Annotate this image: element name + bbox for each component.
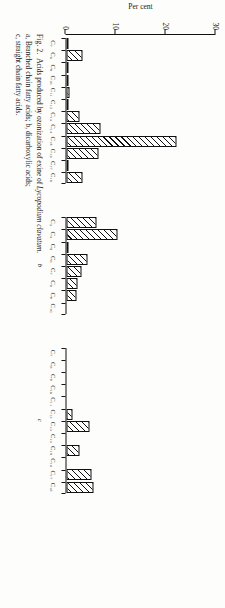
chart-panel-c: C₇C₈C₉C₁₀C₁₁C₁₂C₁₃C₁₄C₁₅C₁₆C₁₇C₁₈c: [65, 348, 215, 493]
bar-c-C8: [66, 360, 67, 371]
caption-text-sep: .: [34, 251, 43, 253]
y-axis-title: Per cent: [128, 2, 152, 11]
x-axis-tick: [61, 217, 65, 218]
x-axis-tick: [61, 99, 65, 100]
x-axis-tick: [61, 290, 65, 291]
figure-caption: Fig. 2. Acids produced by ozonization of…: [11, 34, 43, 574]
x-axis-label-C13: C₁₃: [48, 421, 55, 432]
bar-c-C14: [66, 433, 67, 444]
bar-c-C7: [66, 348, 67, 359]
plot-area: 0102030 Per cent C₇C₈C₉C₁₀C₁₁C₁₂C₁₃C₁₄C₁…: [65, 34, 215, 574]
x-axis-label-C17: C₁₇: [48, 160, 55, 171]
y-axis-tick-label: 0: [61, 26, 69, 30]
x-axis-label-C8: C₈: [48, 50, 55, 61]
x-axis-label-C10: C₁₀: [48, 75, 55, 86]
x-axis-label-C14: C₁₄: [48, 123, 55, 134]
x-axis-tick: [61, 348, 65, 349]
x-axis-label-C8: C₈: [48, 278, 55, 289]
x-axis-labels: C₇C₈C₉C₁₀C₁₁C₁₂C₁₃C₁₄C₁₅C₁₆C₁₇C₁₈: [48, 38, 55, 183]
y-axis-tick-label: 10: [111, 23, 119, 31]
x-axis-tick: [61, 457, 65, 458]
x-axis-tick: [61, 314, 65, 315]
bar-b-C4: [66, 229, 118, 240]
x-axis-label-C18: C₁₈: [48, 172, 55, 183]
x-axis-tick: [61, 372, 65, 373]
bar-c-C15: [66, 445, 79, 456]
y-axis-tick-label: 30: [211, 23, 219, 31]
x-axis-tick: [61, 172, 65, 173]
x-axis-label-C9: C₉: [48, 290, 55, 301]
x-axis-label-C7: C₇: [48, 38, 55, 49]
x-axis-tick: [61, 278, 65, 279]
x-axis-label-C12: C₁₂: [48, 409, 55, 420]
x-axis-tick: [61, 493, 65, 494]
x-axis-tick: [61, 482, 65, 483]
bar-a-C10: [66, 75, 69, 86]
bar-c-C10: [66, 384, 67, 395]
bar-a-C18: [66, 172, 83, 183]
x-axis-label-C4: C₄: [48, 229, 55, 240]
x-axis-label-C5: C₅: [48, 242, 55, 253]
x-axis-tick: [61, 433, 65, 434]
bar-c-C11: [66, 396, 67, 407]
x-axis-label-C15: C₁₅: [48, 445, 55, 456]
x-axis-label-C9: C₉: [48, 372, 55, 383]
figure-number: Fig. 2.: [34, 34, 43, 55]
x-axis-label-C9: C₉: [48, 62, 55, 73]
x-axis-tick: [61, 111, 65, 112]
x-axis-label-C16: C₁₆: [48, 457, 55, 468]
x-axis-tick: [61, 303, 65, 304]
x-axis-label-C11: C₁₁: [48, 87, 55, 98]
bar-group: [66, 348, 215, 493]
x-axis-tick: [61, 421, 65, 422]
x-axis-label-C12: C₁₂: [48, 99, 55, 110]
x-axis-label-C13: C₁₃: [48, 111, 55, 122]
bar-a-C17: [66, 160, 68, 171]
bar-c-C18: [66, 482, 93, 493]
x-axis-tick: [61, 470, 65, 471]
x-axis-label-C10: C₁₀: [48, 303, 55, 314]
caption-species-name: Lycopodium clavatum: [34, 186, 43, 251]
x-axis-tick: [61, 360, 65, 361]
x-axis-label-C7: C₇: [48, 266, 55, 277]
bar-a-C11: [66, 87, 69, 98]
x-axis-label-C18: C₁₈: [48, 482, 55, 493]
bar-b-C8: [66, 278, 77, 289]
x-axis-tick: [61, 384, 65, 385]
bar-b-C3: [66, 217, 96, 228]
rotated-page-wrapper: 0102030 Per cent C₇C₈C₉C₁₀C₁₁C₁₂C₁₃C₁₄C₁…: [0, 0, 225, 608]
bar-a-C7: [66, 38, 68, 49]
x-axis-tick: [61, 123, 65, 124]
x-axis-tick: [61, 160, 65, 161]
bar-b-C10: [66, 303, 67, 314]
caption-legend-c: c, straight chain fatty acids.: [13, 34, 22, 115]
caption-legend-a: a, Branched chain fatty acids;: [23, 34, 32, 123]
bar-group: [66, 38, 215, 183]
bar-a-C9: [66, 62, 68, 73]
bar-b-C7: [66, 266, 81, 277]
x-axis-tick: [61, 445, 65, 446]
x-axis-tick: [61, 242, 65, 243]
chart-panel-b: C₃C₄C₅C₆C₇C₈C₉C₁₀b: [65, 217, 215, 313]
x-axis-tick: [61, 396, 65, 397]
bar-a-C16: [66, 148, 99, 159]
bar-c-C13: [66, 421, 90, 432]
y-axis-line: [65, 34, 215, 35]
bar-a-C12: [66, 99, 69, 110]
bar-b-C9: [66, 290, 76, 301]
x-axis-labels: C₇C₈C₉C₁₀C₁₁C₁₂C₁₃C₁₄C₁₅C₁₆C₁₇C₁₈: [48, 348, 55, 493]
x-axis-label-C6: C₆: [48, 254, 55, 265]
x-axis-tick: [61, 87, 65, 88]
x-axis-tick: [61, 62, 65, 63]
x-axis-tick: [61, 38, 65, 39]
bar-a-C8: [66, 50, 82, 61]
chart-panel-a: C₇C₈C₉C₁₀C₁₁C₁₂C₁₃C₁₄C₁₅C₁₆C₁₇C₁₈a: [65, 38, 215, 183]
bar-group: [66, 217, 215, 313]
caption-text-lead: Acids produced by ozonization of exine o…: [34, 58, 43, 186]
bar-b-C6: [66, 254, 88, 265]
x-axis-label-C10: C₁₀: [48, 384, 55, 395]
x-axis-labels: C₃C₄C₅C₆C₇C₈C₉C₁₀: [48, 217, 55, 313]
x-axis-label-C14: C₁₄: [48, 433, 55, 444]
caption-legend-b: b, dicarboxylic acids;: [23, 123, 32, 186]
x-axis-tick: [61, 148, 65, 149]
